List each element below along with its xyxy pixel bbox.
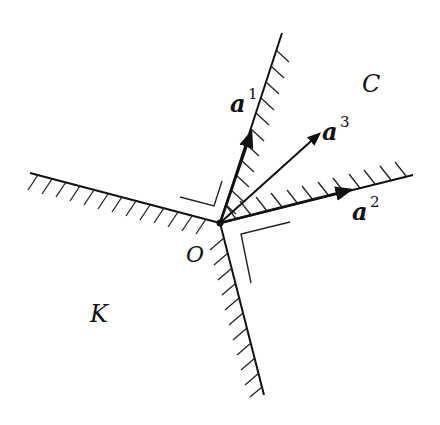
vector-a3-label: a 3 <box>322 113 350 146</box>
svg-text:1: 1 <box>248 85 258 103</box>
region-c-label: C <box>362 70 380 98</box>
vector-a1-label: a 1 <box>230 85 258 118</box>
origin-label: O <box>186 242 204 267</box>
svg-text:2: 2 <box>370 193 380 211</box>
region-k-label: K <box>89 300 110 328</box>
svg-text:a: a <box>322 117 338 146</box>
cone-k-boundary-left <box>28 173 220 234</box>
cone-c-boundary-2 <box>220 162 413 223</box>
right-angle-marker-upper <box>180 181 222 206</box>
cone-diagram: O C K a 1 a 3 a 2 <box>0 0 440 425</box>
cone-k-boundary-bottom <box>210 223 264 397</box>
right-angle-marker-lower <box>241 222 290 283</box>
svg-text:3: 3 <box>340 113 350 131</box>
svg-text:a: a <box>352 197 368 226</box>
svg-text:a: a <box>230 89 246 118</box>
origin-point <box>217 220 224 227</box>
vector-a2-label: a 2 <box>352 193 380 226</box>
